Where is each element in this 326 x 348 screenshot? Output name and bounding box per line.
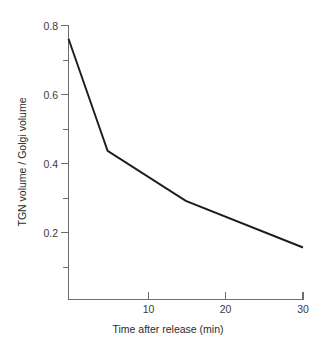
line-chart: 0.8 0.6 0.4 0.2 10 20 30 Time after rele… — [0, 0, 326, 348]
x-tick-label-30: 30 — [297, 303, 309, 315]
x-tick-label-10: 10 — [143, 303, 155, 315]
chart-figure: 0.8 0.6 0.4 0.2 10 20 30 Time after rele… — [0, 0, 326, 348]
data-series-line — [69, 39, 304, 248]
y-tick-label-0.8: 0.8 — [43, 20, 58, 32]
y-tick-label-0.6: 0.6 — [43, 89, 58, 101]
y-axis-title: TGN volume / Golgi volume — [16, 97, 28, 226]
y-tick-label-0.2: 0.2 — [43, 227, 58, 239]
x-axis-title: Time after release (min) — [112, 323, 223, 335]
y-tick-label-0.4: 0.4 — [43, 158, 58, 170]
x-tick-label-20: 20 — [220, 303, 232, 315]
